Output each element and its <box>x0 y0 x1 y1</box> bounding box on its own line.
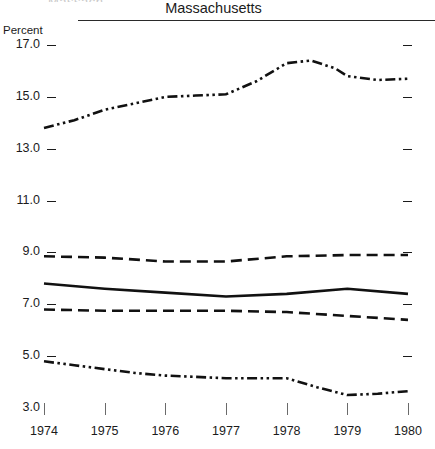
x-tick-label: 1979 <box>324 424 370 438</box>
y-tick-label: 17.0 <box>0 37 40 51</box>
x-tick-label: 1975 <box>82 424 128 438</box>
y-tick-mark-left <box>47 201 56 202</box>
x-tick-label: 1977 <box>203 424 249 438</box>
x-tick-mark <box>347 403 348 415</box>
y-tick-label: 15.0 <box>0 89 40 103</box>
y-tick-mark-right <box>403 45 412 46</box>
y-tick-mark-left <box>47 252 56 253</box>
series-line-series-3 <box>44 284 408 297</box>
y-tick-mark-left <box>47 97 56 98</box>
y-tick-mark-right <box>403 149 412 150</box>
y-tick-mark-left <box>47 149 56 150</box>
x-tick-mark <box>226 403 227 415</box>
y-tick-mark-right <box>403 356 412 357</box>
x-tick-label: 1980 <box>385 424 431 438</box>
x-tick-label: 1974 <box>21 424 67 438</box>
x-tick-mark <box>287 403 288 415</box>
y-tick-mark-left <box>47 304 56 305</box>
y-tick-label: 13.0 <box>0 141 40 155</box>
y-tick-mark-right <box>403 304 412 305</box>
y-tick-mark-right <box>403 201 412 202</box>
x-tick-mark <box>44 403 45 415</box>
y-tick-label: 11.0 <box>0 193 40 207</box>
series-line-series-4 <box>44 309 408 319</box>
x-tick-mark <box>105 403 106 415</box>
x-tick-mark <box>408 403 409 415</box>
y-tick-mark-left <box>47 356 56 357</box>
x-tick-mark <box>165 403 166 415</box>
series-line-series-1 <box>44 61 408 128</box>
y-tick-label: 5.0 <box>0 348 40 362</box>
x-tick-label: 1978 <box>264 424 310 438</box>
y-tick-label: 9.0 <box>0 244 40 258</box>
y-tick-mark-right <box>403 252 412 253</box>
x-tick-label: 1976 <box>142 424 188 438</box>
y-tick-label: 3.0 <box>0 400 40 414</box>
y-tick-mark-left <box>47 45 56 46</box>
plot-area <box>0 0 435 449</box>
chart-figure: Massach Massachusetts Percent 17.015.013… <box>0 0 435 449</box>
series-line-series-2 <box>44 255 408 261</box>
y-tick-mark-right <box>403 97 412 98</box>
series-line-series-5 <box>44 361 408 395</box>
y-tick-label: 7.0 <box>0 296 40 310</box>
